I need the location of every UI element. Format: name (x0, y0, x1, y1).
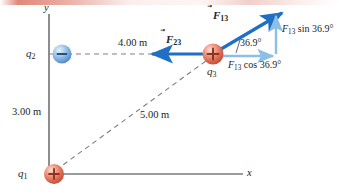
vector-label-F23: ⃗F23 (166, 34, 181, 47)
vector-label-F13-index: 13 (220, 14, 228, 23)
charge-label-q1: q1 (18, 168, 27, 181)
component-label-F13-sin: F13 sin 36.9° (282, 24, 333, 36)
component-label-F13-cos: F13 cos 36.9° (228, 60, 281, 72)
charge-label-q1-index: 1 (24, 172, 28, 181)
physics-force-diagram: y x q2 q1 q3 4.00 m 3.00 m 5.00 m ⃗F13 ⃗… (0, 0, 339, 195)
angle-label: 36.9° (240, 38, 262, 48)
distance-line-q1-q3 (56, 58, 210, 170)
distance-label-q1-q2: 3.00 m (12, 107, 41, 118)
x-axis-label: x (247, 168, 252, 179)
vector-label-F23-index: 23 (173, 38, 181, 47)
vector-label-F23-symbol: F (166, 33, 173, 45)
distance-label-q1-q3: 5.00 m (140, 110, 169, 121)
component-label-F13-sin-expr: sin 36.9° (295, 23, 333, 34)
vector-label-F13: ⃗F13 (213, 10, 228, 23)
y-axis-label: y (44, 3, 49, 14)
charge-label-q2-index: 2 (32, 52, 36, 61)
distance-label-q2-q3: 4.00 m (118, 38, 147, 49)
vector-label-F13-symbol: F (213, 9, 220, 21)
charge-label-q2: q2 (26, 48, 35, 61)
charge-label-q3-index: 3 (213, 70, 217, 79)
component-label-F13-cos-expr: cos 36.9° (241, 59, 281, 70)
charge-label-q3: q3 (207, 66, 216, 79)
